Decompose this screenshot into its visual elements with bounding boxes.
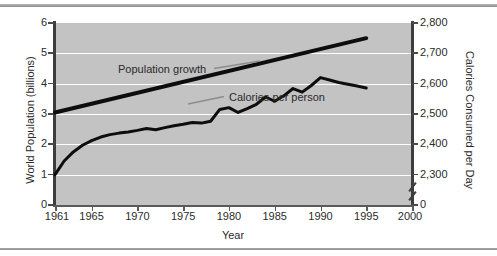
- chart-figure: 6 5 4 3 2 1 0 2,800 2,700 2,600 2,500 2,…: [0, 0, 497, 256]
- leader-line-calories-per-person: [188, 97, 224, 105]
- data-lines-layer: [0, 0, 497, 256]
- annotation-calories-per-person: Calories per person: [229, 91, 325, 103]
- annotation-population-growth: Population growth: [118, 63, 206, 75]
